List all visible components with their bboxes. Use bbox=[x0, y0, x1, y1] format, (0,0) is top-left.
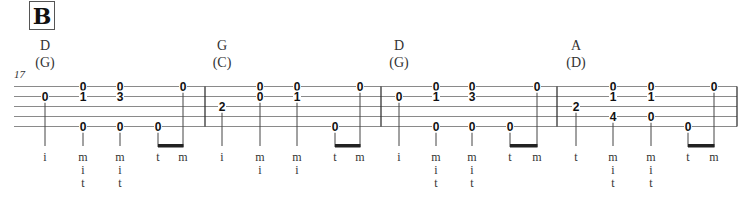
finger-label: m bbox=[78, 150, 88, 164]
finger-label: t bbox=[611, 176, 615, 190]
capo-chord-label: (C) bbox=[213, 55, 232, 71]
banjo-tab-page: B 17 D(G)0i010mit030mit0t0mG(C)2i00mi01m… bbox=[0, 0, 748, 198]
note-event: 01mi bbox=[292, 80, 302, 177]
finger-label: m bbox=[467, 150, 477, 164]
measure-2: G(C)2i00mi01mi0t0m bbox=[213, 38, 366, 177]
note-event: 0t bbox=[331, 120, 339, 164]
fret-number: 0 bbox=[42, 90, 49, 104]
finger-label: t bbox=[81, 176, 85, 190]
capo-chord-label: (G) bbox=[389, 55, 409, 71]
fret-number: 4 bbox=[610, 110, 617, 124]
finger-label: t bbox=[574, 150, 578, 164]
note-event: 0t bbox=[506, 120, 514, 164]
measure-number: 17 bbox=[14, 68, 26, 80]
note-event: 2i bbox=[218, 100, 226, 164]
finger-label: i bbox=[649, 163, 653, 177]
note-event: 0m bbox=[178, 80, 188, 164]
capo-chord-label: (G) bbox=[35, 55, 55, 71]
fret-number: 0 bbox=[180, 80, 187, 94]
eighth-beam bbox=[688, 144, 715, 148]
note-event: 00mi bbox=[255, 80, 265, 177]
fret-number: 0 bbox=[507, 120, 514, 134]
note-event: 0m bbox=[532, 80, 542, 164]
fret-number: 0 bbox=[433, 120, 440, 134]
finger-label: i bbox=[258, 163, 262, 177]
chord-label: D bbox=[394, 38, 404, 53]
fret-number: 0 bbox=[648, 110, 655, 124]
fret-number: 0 bbox=[396, 90, 403, 104]
finger-label: t bbox=[118, 176, 122, 190]
note-event: 0t bbox=[684, 120, 692, 164]
capo-chord-label: (D) bbox=[566, 55, 586, 71]
finger-label: m bbox=[608, 150, 618, 164]
fret-number: 0 bbox=[469, 120, 476, 134]
fret-number: 2 bbox=[219, 100, 226, 114]
finger-label: t bbox=[156, 150, 160, 164]
finger-label: m bbox=[709, 150, 719, 164]
measure-1: D(G)0i010mit030mit0t0m bbox=[35, 38, 188, 190]
fret-number: 3 bbox=[117, 90, 124, 104]
finger-label: i bbox=[295, 163, 299, 177]
note-event: 010mit bbox=[646, 80, 656, 190]
finger-label: m bbox=[255, 150, 265, 164]
finger-label: m bbox=[292, 150, 302, 164]
fret-number: 1 bbox=[433, 90, 440, 104]
fret-number: 0 bbox=[534, 80, 541, 94]
fret-number: 1 bbox=[294, 90, 301, 104]
finger-label: m bbox=[115, 150, 125, 164]
eighth-beam bbox=[158, 144, 184, 148]
eighth-beam bbox=[510, 144, 538, 148]
fret-number: 0 bbox=[155, 120, 162, 134]
measure-3: D(G)0i010mit030mit0t0m bbox=[389, 38, 542, 190]
finger-label: m bbox=[532, 150, 542, 164]
finger-label: i bbox=[611, 163, 615, 177]
finger-label: i bbox=[220, 150, 224, 164]
finger-label: t bbox=[470, 176, 474, 190]
note-event: 2t bbox=[572, 100, 580, 164]
fret-number: 0 bbox=[332, 120, 339, 134]
note-event: 030mit bbox=[467, 80, 477, 190]
tablature-staff: 17 D(G)0i010mit030mit0t0mG(C)2i00mi01mi0… bbox=[0, 0, 748, 198]
fret-number: 0 bbox=[357, 80, 364, 94]
tab-marks: D(G)0i010mit030mit0t0mG(C)2i00mi01mi0t0m… bbox=[35, 38, 719, 190]
measure-4: A(D)2t014mit010mit0t0m bbox=[566, 38, 719, 190]
note-event: 030mit bbox=[115, 80, 125, 190]
finger-label: m bbox=[431, 150, 441, 164]
chord-label: A bbox=[571, 38, 582, 53]
finger-label: i bbox=[43, 150, 47, 164]
fret-number: 3 bbox=[469, 90, 476, 104]
fret-number: 0 bbox=[685, 120, 692, 134]
finger-label: i bbox=[118, 163, 122, 177]
note-event: 0m bbox=[355, 80, 365, 164]
finger-label: m bbox=[646, 150, 656, 164]
finger-label: i bbox=[397, 150, 401, 164]
note-event: 0t bbox=[154, 120, 162, 164]
note-event: 010mit bbox=[78, 80, 88, 190]
fret-number: 0 bbox=[257, 90, 264, 104]
fret-number: 1 bbox=[610, 90, 617, 104]
fret-number: 0 bbox=[80, 120, 87, 134]
finger-label: m bbox=[355, 150, 365, 164]
finger-label: i bbox=[470, 163, 474, 177]
fret-number: 1 bbox=[648, 90, 655, 104]
finger-label: m bbox=[178, 150, 188, 164]
finger-label: t bbox=[333, 150, 337, 164]
fret-number: 2 bbox=[573, 100, 580, 114]
note-event: 0m bbox=[709, 80, 719, 164]
finger-label: t bbox=[686, 150, 690, 164]
finger-label: t bbox=[434, 176, 438, 190]
note-event: 010mit bbox=[431, 80, 441, 190]
eighth-beam bbox=[335, 144, 361, 148]
finger-label: i bbox=[434, 163, 438, 177]
finger-label: t bbox=[649, 176, 653, 190]
chord-label: G bbox=[217, 38, 227, 53]
chord-label: D bbox=[40, 38, 50, 53]
finger-label: t bbox=[508, 150, 512, 164]
note-event: 014mit bbox=[608, 80, 618, 190]
fret-number: 0 bbox=[117, 120, 124, 134]
fret-number: 0 bbox=[711, 80, 718, 94]
finger-label: i bbox=[81, 163, 85, 177]
fret-number: 1 bbox=[80, 90, 87, 104]
